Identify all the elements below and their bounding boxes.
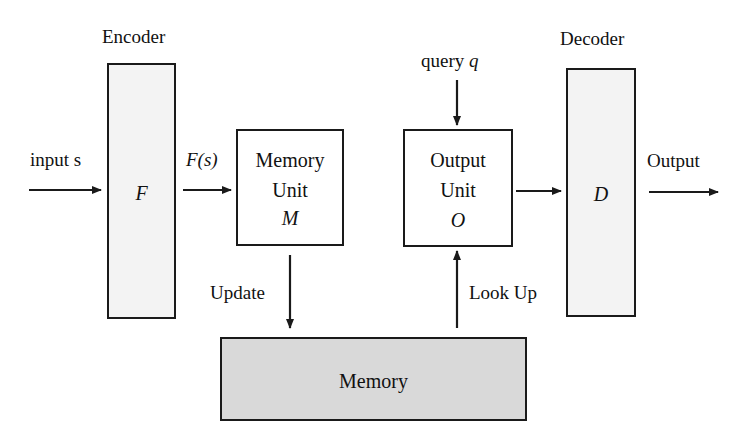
output-unit-line2: Unit (405, 180, 511, 200)
input-label: input s (30, 150, 81, 169)
output-unit-box: Output Unit O (403, 129, 513, 247)
query-symbol: q (469, 50, 479, 71)
memory-label: Memory (222, 371, 525, 391)
memory-box: Memory (220, 337, 527, 421)
memory-unit-box: Memory Unit M (236, 129, 344, 246)
query-text: query (421, 50, 464, 71)
query-label: query q (421, 51, 479, 70)
memory-unit-line2: Unit (238, 180, 342, 200)
memory-unit-line1: Memory (238, 150, 342, 170)
encoder-box: F (107, 63, 176, 319)
decoder-symbol: D (568, 184, 634, 204)
encoded-label: F(s) (186, 150, 218, 169)
output-label: Output (647, 151, 700, 170)
decoder-box: D (566, 68, 636, 317)
update-label: Update (210, 283, 265, 302)
output-unit-line1: Output (405, 150, 511, 170)
encoder-title: Encoder (102, 27, 165, 46)
decoder-title: Decoder (560, 29, 624, 48)
memory-unit-symbol: M (238, 208, 342, 228)
output-unit-symbol: O (405, 210, 511, 230)
encoder-symbol: F (109, 183, 174, 203)
lookup-label: Look Up (469, 283, 537, 302)
